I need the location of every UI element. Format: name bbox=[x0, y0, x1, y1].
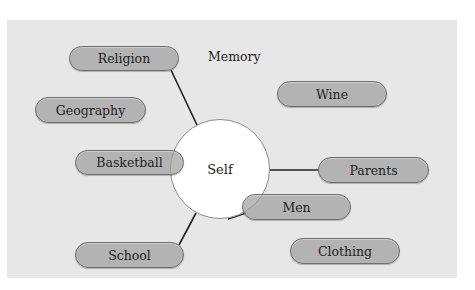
node-label: School bbox=[108, 248, 151, 263]
connector-line-religion bbox=[171, 70, 197, 125]
node-basketball[interactable]: Basketball bbox=[75, 150, 184, 175]
node-geography[interactable]: Geography bbox=[35, 97, 146, 123]
diagram-canvas: Self Memory Religion Geography Basketbal… bbox=[0, 0, 475, 290]
node-religion[interactable]: Religion bbox=[69, 46, 179, 71]
node-label: Parents bbox=[349, 163, 397, 178]
node-clothing[interactable]: Clothing bbox=[290, 238, 400, 264]
self-node-label: Self bbox=[207, 162, 233, 177]
node-label: Clothing bbox=[318, 244, 372, 259]
node-label: Basketball bbox=[96, 155, 163, 170]
node-label: Religion bbox=[98, 51, 150, 66]
node-label: Men bbox=[282, 200, 310, 215]
memory-label: Memory bbox=[208, 49, 261, 64]
node-label: Geography bbox=[56, 103, 125, 118]
node-men[interactable]: Men bbox=[242, 194, 351, 220]
connector-line-school bbox=[179, 213, 196, 245]
node-parents[interactable]: Parents bbox=[318, 157, 429, 183]
node-label: Wine bbox=[316, 87, 348, 102]
node-wine[interactable]: Wine bbox=[277, 81, 387, 107]
node-school[interactable]: School bbox=[75, 242, 184, 268]
